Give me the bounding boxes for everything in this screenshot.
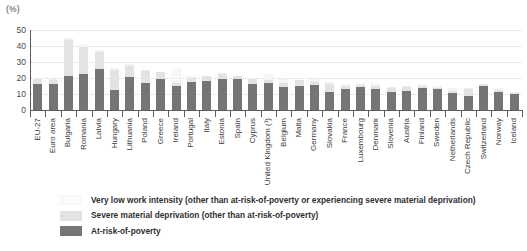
bar-segment <box>402 91 411 110</box>
bar-segment <box>418 88 427 110</box>
category-label: Iceland <box>510 118 518 144</box>
stacked-bar[interactable] <box>95 50 104 110</box>
stacked-bar[interactable] <box>49 79 58 110</box>
stacked-bar[interactable] <box>387 87 396 110</box>
bar-segment <box>387 92 396 110</box>
bar-slot <box>476 30 491 110</box>
stacked-bar[interactable] <box>264 74 273 110</box>
category-label: Netherlands <box>449 118 457 161</box>
category-label: Hungary <box>111 118 119 148</box>
category-label-slot: United Kingdom (¹) <box>261 118 276 180</box>
stacked-bar[interactable] <box>79 44 88 110</box>
category-label: Austria <box>403 118 411 143</box>
bar-segment <box>156 79 165 110</box>
stacked-bar[interactable] <box>494 88 503 110</box>
stacked-bar-chart: (%) 50403020100 EU-27Euro areaBulgariaRo… <box>0 0 527 251</box>
bar-slot <box>245 30 260 110</box>
category-label: Slovakia <box>326 118 334 148</box>
y-tick-label: 20 <box>8 74 26 83</box>
bar-slot <box>399 30 414 110</box>
stacked-bar[interactable] <box>356 83 365 110</box>
legend-item[interactable]: At-risk-of-poverty <box>60 225 525 237</box>
bar-slot <box>61 30 76 110</box>
legend-swatch <box>60 195 82 205</box>
stacked-bar[interactable] <box>464 88 473 110</box>
stacked-bar[interactable] <box>325 82 334 110</box>
stacked-bar[interactable] <box>172 69 181 110</box>
x-tick <box>399 110 400 117</box>
stacked-bar[interactable] <box>187 76 196 110</box>
stacked-bar[interactable] <box>448 88 457 110</box>
category-label-slot: Poland <box>138 118 153 180</box>
bar-segment <box>279 87 288 110</box>
bar-slot <box>168 30 183 110</box>
stacked-bar[interactable] <box>233 76 242 110</box>
stacked-bar[interactable] <box>418 84 427 110</box>
stacked-bar[interactable] <box>279 79 288 110</box>
stacked-bar[interactable] <box>510 92 519 110</box>
category-label-slot: Norway <box>491 118 506 180</box>
category-label: Estonia <box>218 118 226 145</box>
x-tick <box>61 110 62 117</box>
category-label: Cyprus <box>249 118 257 143</box>
bar-slot <box>184 30 199 110</box>
category-label-slot: Euro area <box>45 118 60 180</box>
category-label: Slovenia <box>387 118 395 149</box>
stacked-bar[interactable] <box>141 70 150 110</box>
category-label-slot: Czech Republic <box>461 118 476 180</box>
x-tick <box>291 110 292 117</box>
stacked-bar[interactable] <box>402 86 411 110</box>
category-label-slot: France <box>338 118 353 180</box>
y-tick-label: 50 <box>8 26 26 35</box>
stacked-bar[interactable] <box>248 78 257 110</box>
category-label: Belgium <box>280 118 288 147</box>
stacked-bar[interactable] <box>479 84 488 110</box>
stacked-bar[interactable] <box>218 73 227 110</box>
category-label-slot: Ireland <box>168 118 183 180</box>
bar-segment <box>141 83 150 110</box>
stacked-bar[interactable] <box>110 68 119 110</box>
x-tick <box>122 110 123 117</box>
category-label: Luxembourg <box>357 118 365 162</box>
legend-item[interactable]: Very low work intensity (other than at-r… <box>60 194 525 206</box>
x-tick <box>199 110 200 117</box>
stacked-bar[interactable] <box>310 79 319 110</box>
bar-segment <box>141 71 150 83</box>
bar-slot <box>261 30 276 110</box>
stacked-bar[interactable] <box>202 76 211 110</box>
bar-slot <box>30 30 45 110</box>
stacked-bar[interactable] <box>156 72 165 110</box>
stacked-bar[interactable] <box>64 38 73 110</box>
bar-segment <box>264 83 273 110</box>
bar-slot <box>138 30 153 110</box>
bar-slot <box>507 30 522 110</box>
stacked-bar[interactable] <box>341 84 350 110</box>
category-label-slot: Lithuania <box>122 118 137 180</box>
bar-segment <box>125 77 134 110</box>
stacked-bar[interactable] <box>295 80 304 110</box>
category-label-slot: Bulgaria <box>61 118 76 180</box>
bar-segment <box>110 70 119 90</box>
bar-slot <box>307 30 322 110</box>
bar-slot <box>461 30 476 110</box>
bar-segment <box>79 47 88 74</box>
category-label-slot: Finland <box>414 118 429 180</box>
bar-segment <box>356 87 365 110</box>
bar-segment <box>110 90 119 110</box>
x-tick <box>414 110 415 117</box>
bar-segment <box>325 84 334 93</box>
bar-slot <box>76 30 91 110</box>
stacked-bar[interactable] <box>125 64 134 110</box>
y-tick-label: 30 <box>8 58 26 67</box>
legend-item[interactable]: Severe material deprivation (other than … <box>60 210 525 222</box>
bar-segment <box>125 66 134 77</box>
x-tick <box>507 110 508 117</box>
bar-segment <box>79 74 88 110</box>
stacked-bar[interactable] <box>33 78 42 110</box>
x-tick <box>261 110 262 117</box>
category-label-slot: Denmark <box>368 118 383 180</box>
stacked-bar[interactable] <box>433 86 442 110</box>
bar-slot <box>122 30 137 110</box>
stacked-bar[interactable] <box>371 83 380 110</box>
bar-slot <box>384 30 399 110</box>
